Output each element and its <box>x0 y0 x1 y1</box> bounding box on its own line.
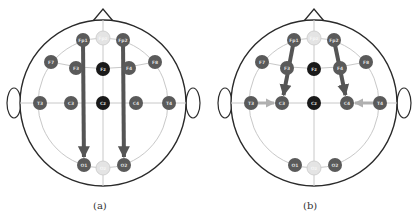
electrode-o2: O2 <box>117 158 131 172</box>
electrode-label: Fp2 <box>329 38 338 43</box>
electrode-f7: F7 <box>255 55 269 69</box>
electrode-label: Oz <box>100 166 107 171</box>
electrode-label: Fz <box>100 67 106 72</box>
electrode-label: F4 <box>337 66 343 71</box>
electrode-label: Oz <box>311 166 318 171</box>
electrode-label: Fp1 <box>78 38 87 43</box>
electrode-t3: T3 <box>33 96 47 110</box>
electrode-fp2: Fp2 <box>116 33 130 47</box>
left-ear-icon <box>218 88 232 118</box>
electrode-cz: Cz <box>307 96 321 110</box>
electrode-label: Fpz <box>99 36 108 41</box>
arrow-fp1-to-o1 <box>83 40 84 157</box>
electrode-label: Fp1 <box>289 38 298 43</box>
electrode-oz: Oz <box>307 161 321 175</box>
electrode-f3: F3 <box>280 61 294 75</box>
electrode-label: F7 <box>48 60 54 65</box>
electrode-label: F4 <box>126 66 132 71</box>
caption-b: (b) <box>303 200 317 211</box>
electrode-fz: Fz <box>96 62 110 76</box>
right-ear-icon <box>186 88 200 118</box>
head-panel-b: FpzFp1Fp2F7F3FzF4F8T3C3CzC4T4O1OzO2 <box>218 9 411 186</box>
electrode-label: F3 <box>73 66 79 71</box>
electrode-label: T3 <box>248 101 254 106</box>
electrode-f4: F4 <box>122 61 136 75</box>
electrode-label: Cz <box>100 101 106 106</box>
electrode-label: Fpz <box>310 36 319 41</box>
electrode-label: O2 <box>332 163 339 168</box>
eeg-electrode-diagram: FpzFp1Fp2F7F3FzF4F8T3C3CzC4T4O1OzO2FpzFp… <box>0 0 414 222</box>
electrode-label: F8 <box>152 60 158 65</box>
electrode-fpz: Fpz <box>96 31 110 45</box>
electrode-label: O1 <box>292 163 299 168</box>
electrode-label: Cz <box>311 101 317 106</box>
electrode-label: C3 <box>279 101 285 106</box>
electrode-o1: O1 <box>288 158 302 172</box>
electrode-oz: Oz <box>96 161 110 175</box>
electrode-o1: O1 <box>77 158 91 172</box>
electrode-t4: T4 <box>162 96 176 110</box>
left-ear-icon <box>7 88 21 118</box>
head-panel-a: FpzFp1Fp2F7F3FzF4F8T3C3CzC4T4O1OzO2 <box>7 9 200 186</box>
electrode-label: Fp2 <box>118 38 127 43</box>
electrode-label: Fz <box>311 67 317 72</box>
electrode-label: T4 <box>377 101 383 106</box>
electrode-label: C3 <box>68 101 74 106</box>
electrode-c3: C3 <box>275 96 289 110</box>
electrode-label: T4 <box>166 101 172 106</box>
electrode-fp1: Fp1 <box>287 33 301 47</box>
electrode-f7: F7 <box>44 55 58 69</box>
electrode-c3: C3 <box>64 96 78 110</box>
electrode-f3: F3 <box>69 61 83 75</box>
electrode-f8: F8 <box>148 55 162 69</box>
nose-icon <box>93 9 113 21</box>
electrode-fz: Fz <box>307 62 321 76</box>
electrode-label: O2 <box>121 163 128 168</box>
electrode-label: F7 <box>259 60 265 65</box>
electrode-label: O1 <box>81 163 88 168</box>
nose-icon <box>304 9 324 21</box>
electrode-f8: F8 <box>359 55 373 69</box>
right-ear-icon <box>397 88 411 118</box>
electrode-c4: C4 <box>129 96 143 110</box>
electrode-label: C4 <box>344 101 350 106</box>
arrow-fp2-to-o2 <box>123 40 124 157</box>
electrode-label: T3 <box>37 101 43 106</box>
electrode-cz: Cz <box>96 96 110 110</box>
electrode-o2: O2 <box>328 158 342 172</box>
electrode-label: C4 <box>133 101 139 106</box>
caption-a: (a) <box>93 200 107 211</box>
electrode-f4: F4 <box>333 61 347 75</box>
electrode-fp2: Fp2 <box>327 33 341 47</box>
electrode-c4: C4 <box>340 96 354 110</box>
electrode-fpz: Fpz <box>307 31 321 45</box>
electrode-label: F3 <box>284 66 290 71</box>
electrode-t4: T4 <box>373 96 387 110</box>
electrode-fp1: Fp1 <box>76 33 90 47</box>
electrode-t3: T3 <box>244 96 258 110</box>
electrode-label: F8 <box>363 60 369 65</box>
